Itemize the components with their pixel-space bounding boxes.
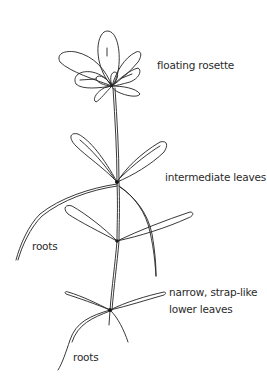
- floating-rosette: [59, 31, 141, 102]
- label-floating-rosette: floating rosette: [157, 57, 234, 73]
- label-intermediate-leaves: intermediate leaves: [165, 169, 266, 185]
- upper-roots: [16, 184, 156, 276]
- node-lower: [108, 308, 111, 311]
- label-lower-leaves-line1: narrow, strap-like: [169, 284, 257, 300]
- node-middle: [116, 240, 119, 243]
- node-intermediate: [115, 180, 118, 183]
- label-roots-lower: roots: [73, 349, 99, 365]
- middle-leaves: [65, 205, 193, 241]
- stem: [109, 88, 119, 325]
- label-roots-upper: roots: [32, 238, 58, 254]
- plant-diagram: floating rosette intermediate leaves roo…: [0, 0, 267, 382]
- label-lower-leaves-line2: lower leaves: [169, 301, 233, 317]
- lower-leaves: [65, 292, 165, 310]
